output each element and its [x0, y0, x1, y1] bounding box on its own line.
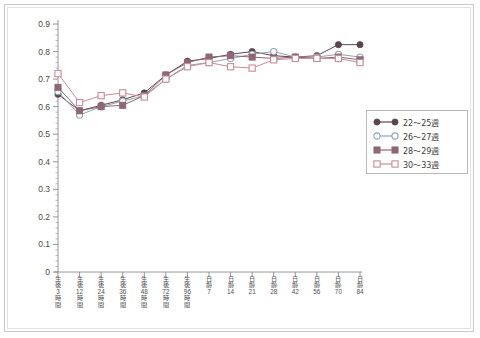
legend-marker-filled-square-icon [371, 144, 401, 156]
x-tick-label: 生後48時間 [138, 276, 150, 308]
x-tick-label: 日齢14 [225, 276, 237, 295]
legend-item: 26～27週 [371, 129, 464, 143]
x-tick-label: 日齢21 [246, 276, 258, 295]
x-tick-label: 日齢28 [268, 276, 280, 295]
y-axis: 0.90.80.70.60.50.40.30.20.10 [38, 19, 58, 277]
y-tick-label: 0.2 [38, 212, 50, 222]
legend-label: 28～29週 [401, 145, 439, 156]
chart-page: 0.90.80.70.60.50.40.30.20.10 生後3時間生後12時間… [0, 0, 480, 338]
x-tick-label: 生後36時間 [117, 276, 129, 308]
x-tick-label: 日齢56 [311, 276, 323, 295]
x-tick-label: 日齢42 [289, 276, 301, 295]
legend-label: 26～27週 [401, 131, 439, 142]
y-tick-label: 0.5 [38, 129, 50, 139]
legend-marker-open-circle-icon [371, 130, 401, 142]
x-tick-label: 日齢70 [332, 276, 344, 295]
y-tick-label: 0.8 [38, 47, 50, 57]
y-tick-label: 0.3 [38, 184, 50, 194]
data-series-group [55, 42, 363, 118]
x-tick-label: 生後3時間 [52, 276, 64, 308]
x-tick-label: 生後72時間 [160, 276, 172, 308]
y-tick-label: 0.9 [38, 19, 50, 29]
x-tick-label: 生後24時間 [95, 276, 107, 308]
x-tick-label: 日齢7 [203, 276, 215, 295]
legend-marker-filled-circle-icon [371, 116, 401, 128]
legend-label: 22～25週 [401, 117, 439, 128]
legend-item: 30～33週 [371, 157, 464, 171]
x-tick-label: 生後96時間 [181, 276, 193, 308]
legend-item: 22～25週 [371, 115, 464, 129]
legend-marker-open-square-icon [371, 158, 401, 170]
chart-legend: 22～25週 26～27週 28～29週 30～33週 [366, 110, 468, 174]
x-tick-label: 日齢84 [354, 276, 366, 295]
y-tick-label: 0.4 [38, 157, 50, 167]
y-tick-label: 0.6 [38, 102, 50, 112]
legend-label: 30～33週 [401, 159, 439, 170]
x-tick-label: 生後12時間 [74, 276, 86, 308]
legend-item: 28～29週 [371, 143, 464, 157]
data-series [55, 55, 363, 105]
y-tick-label: 0.1 [38, 239, 50, 249]
y-tick-label: 0.7 [38, 74, 50, 84]
x-axis-labels: 生後3時間生後12時間生後24時間生後36時間生後48時間生後72時間生後96時… [0, 274, 480, 334]
